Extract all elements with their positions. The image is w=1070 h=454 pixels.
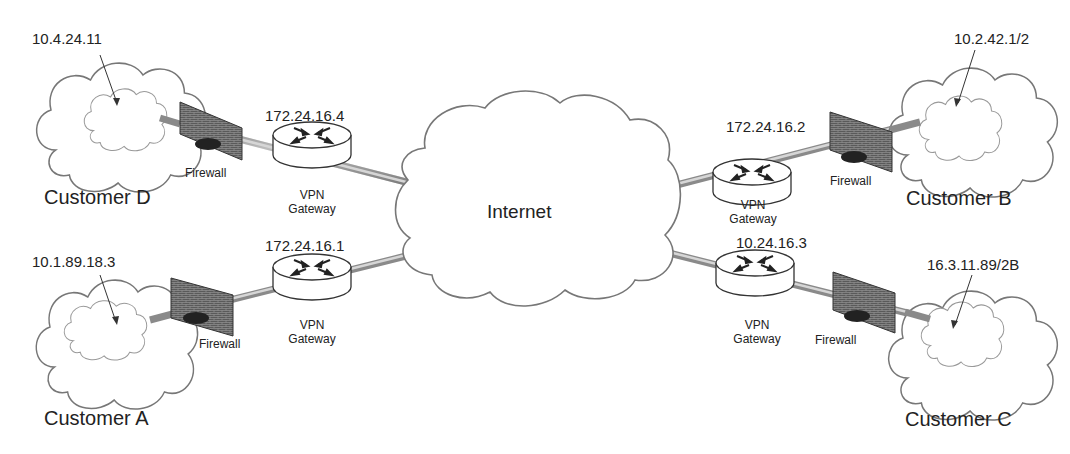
gateway-c-label: VPN Gateway	[727, 318, 787, 346]
router-d-icon	[273, 122, 351, 168]
internet-cloud-icon	[396, 91, 681, 306]
customer-d-label: Customer D	[44, 186, 151, 209]
customer-a-inner-cloud-icon	[64, 301, 147, 360]
customer-b-inner-cloud-icon	[919, 96, 1002, 160]
router-c-icon	[716, 250, 794, 296]
customer-c-ip: 16.3.11.89/2B	[927, 256, 1019, 273]
firewall-d-label: Firewall	[185, 166, 226, 180]
firewall-a-label: Firewall	[199, 337, 240, 351]
customer-b-ip: 10.2.42.1/2	[954, 30, 1029, 47]
internet-label: Internet	[487, 201, 551, 223]
customer-d-ip: 10.4.24.11	[32, 30, 102, 47]
router-a-icon	[273, 254, 351, 300]
customer-c-inner-cloud-icon	[921, 302, 1004, 366]
gateway-b-label: VPN Gateway	[723, 198, 783, 226]
gateway-a-ip: 172.24.16.1	[265, 237, 344, 254]
customer-c-label: Customer C	[905, 408, 1012, 431]
gateway-b-ip: 172.24.16.2	[726, 118, 805, 135]
customer-b-label: Customer B	[906, 187, 1012, 210]
customer-d-inner-cloud-icon	[84, 89, 167, 151]
gateway-a-label: VPN Gateway	[282, 318, 342, 346]
firewall-b-label: Firewall	[830, 174, 871, 188]
firewall-c-label: Firewall	[815, 333, 856, 347]
customer-a-label: Customer A	[44, 407, 148, 430]
gateway-c-ip: 10.24.16.3	[736, 234, 807, 251]
gateway-d-ip: 172.24.16.4	[265, 107, 344, 124]
firewall-c-icon	[833, 272, 895, 333]
firewall-b-icon	[830, 112, 892, 172]
customer-a-ip: 10.1.89.18.3	[32, 253, 115, 270]
gateway-d-label: VPN Gateway	[282, 188, 342, 216]
network-diagram	[0, 0, 1070, 454]
